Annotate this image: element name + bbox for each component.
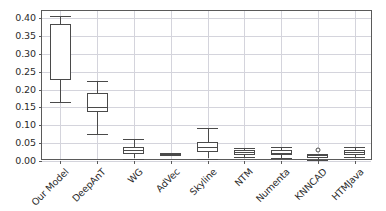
whisker-cap <box>344 157 365 158</box>
y-tick-mark <box>39 161 42 162</box>
whisker-line <box>60 16 61 24</box>
whisker-cap <box>344 147 365 148</box>
boxplot-figure: 0.000.050.100.150.200.250.300.350.40Our … <box>0 0 386 211</box>
x-tick-mark <box>134 161 135 164</box>
y-tick-mark <box>39 125 42 126</box>
whisker-line <box>97 81 98 93</box>
x-axis-tick-label: WG <box>125 166 144 185</box>
y-gridline <box>42 54 371 55</box>
x-axis-tick-label: DeepAnT <box>70 166 108 204</box>
median-line <box>160 154 181 155</box>
median-line <box>234 152 255 153</box>
whisker-cap <box>234 157 255 158</box>
whisker-line <box>60 80 61 102</box>
plot-area <box>41 10 372 160</box>
median-line <box>123 150 144 151</box>
whisker-cap <box>197 159 218 160</box>
whisker-cap <box>50 102 71 103</box>
x-tick-mark <box>355 161 356 164</box>
y-axis-tick-label: 0.15 <box>15 101 36 112</box>
whisker-cap <box>123 159 144 160</box>
x-axis-tick-label: HTMJava <box>329 166 365 202</box>
y-gridline <box>42 18 371 19</box>
y-gridline <box>42 90 371 91</box>
y-axis-tick-label: 0.10 <box>15 119 36 130</box>
y-axis-tick-label: 0.35 <box>15 30 36 41</box>
whisker-cap <box>307 160 328 161</box>
x-gridline <box>134 11 135 159</box>
y-gridline <box>42 72 371 73</box>
median-line <box>197 147 218 148</box>
x-tick-mark <box>60 161 61 164</box>
x-tick-mark <box>318 161 319 164</box>
x-tick-mark <box>281 161 282 164</box>
y-axis-tick-label: 0.20 <box>15 83 36 94</box>
x-gridline <box>355 11 356 159</box>
median-line <box>87 107 108 108</box>
y-tick-mark <box>39 18 42 19</box>
x-gridline <box>171 11 172 159</box>
y-tick-mark <box>39 36 42 37</box>
box <box>87 93 108 113</box>
y-axis-tick-label: 0.40 <box>15 12 36 23</box>
y-tick-mark <box>39 143 42 144</box>
x-tick-mark <box>97 161 98 164</box>
y-axis-tick-label: 0.05 <box>15 137 36 148</box>
y-axis-tick-label: 0.30 <box>15 47 36 58</box>
x-gridline <box>281 11 282 159</box>
x-tick-mark <box>171 161 172 164</box>
y-tick-mark <box>39 72 42 73</box>
x-axis-tick-label: Numenta <box>254 166 292 204</box>
y-gridline <box>42 161 371 162</box>
whisker-cap <box>271 158 292 159</box>
y-axis-tick-label: 0.25 <box>15 65 36 76</box>
box <box>50 24 71 80</box>
median-line <box>344 152 365 153</box>
x-axis-tick-label: Our Model <box>29 166 71 208</box>
x-gridline <box>318 11 319 159</box>
y-gridline <box>42 125 371 126</box>
x-gridline <box>244 11 245 159</box>
x-tick-mark <box>244 161 245 164</box>
whisker-cap <box>271 147 292 148</box>
whisker-cap <box>234 148 255 149</box>
x-axis-tick-label: Skyline <box>187 166 218 197</box>
median-line <box>271 153 292 154</box>
whisker-cap <box>197 128 218 129</box>
whisker-cap <box>87 81 108 82</box>
whisker-cap <box>50 16 71 17</box>
median-line <box>50 79 71 80</box>
x-axis-tick-label: AdVec <box>153 166 181 194</box>
x-tick-mark <box>208 161 209 164</box>
x-axis-tick-label: KNNCAD <box>292 166 328 202</box>
y-axis-tick-label: 0.00 <box>15 155 36 166</box>
y-gridline <box>42 36 371 37</box>
outlier-point <box>315 147 320 152</box>
whisker-line <box>134 139 135 147</box>
y-tick-mark <box>39 90 42 91</box>
y-tick-mark <box>39 54 42 55</box>
whisker-cap <box>123 139 144 140</box>
whisker-cap <box>87 134 108 135</box>
whisker-line <box>97 112 98 133</box>
y-tick-mark <box>39 107 42 108</box>
whisker-line <box>208 128 209 142</box>
x-axis-tick-label: NTM <box>233 166 255 188</box>
median-line <box>307 157 328 158</box>
